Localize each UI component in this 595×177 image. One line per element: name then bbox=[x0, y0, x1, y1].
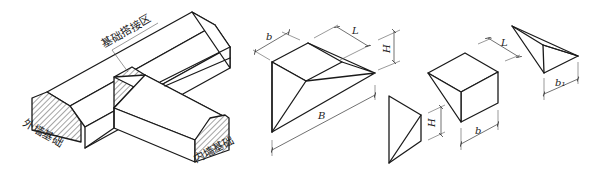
box-dim-b-label: b bbox=[475, 125, 481, 136]
pyramid-dim-b1-label: b₁ bbox=[555, 77, 565, 88]
dim-L-label: L bbox=[351, 25, 359, 36]
trapezoid-prism-drawing: b L H B bbox=[253, 25, 400, 156]
foundation-overlap-diagram: 基础搭接区 外墙基础 内墙基础 b L H B bbox=[0, 0, 595, 177]
small-triangle-dim-H-label: H bbox=[426, 118, 437, 128]
t-junction-foundation-drawing: 基础搭接区 外墙基础 内墙基础 bbox=[21, 12, 237, 166]
small-triangle-drawing: H bbox=[389, 96, 445, 163]
box-wedge-drawing: b L bbox=[428, 37, 520, 150]
dim-H-label: H bbox=[381, 44, 392, 54]
dim-B-label: B bbox=[317, 110, 325, 121]
box-dim-L-label: L bbox=[500, 37, 508, 48]
pyramid-drawing: b₁ bbox=[512, 26, 578, 100]
dim-b-label: b bbox=[266, 31, 272, 42]
